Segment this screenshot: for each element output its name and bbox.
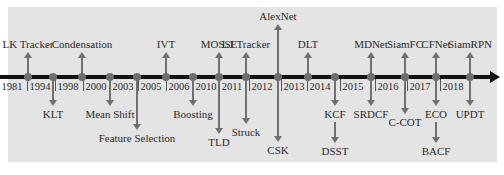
timeline-node: [189, 73, 197, 81]
event-label-up: SiamFC: [387, 38, 423, 50]
event-label-up: Condensation: [52, 38, 113, 50]
year-label: 2003: [113, 81, 134, 93]
event-label-down: UPDT: [456, 108, 485, 120]
event-label-down: Boosting: [173, 108, 213, 120]
arrow-down-icon: [367, 100, 375, 106]
year-separator: [375, 79, 376, 91]
arrow-up-icon: [24, 52, 32, 58]
down-arrow-stem: [277, 77, 279, 137]
timeline-node: [274, 73, 282, 81]
arrow-up-icon: [215, 52, 223, 58]
year-label: 2011: [222, 81, 243, 93]
year-label: 2012: [252, 81, 273, 93]
arrow-down-icon: [215, 128, 223, 134]
down-arrow-stem: [404, 77, 406, 109]
event-label-up: CFNet: [421, 38, 450, 50]
arrow-down-icon: [242, 118, 250, 124]
arrow-down-icon: [274, 136, 282, 142]
arrow-down-icon: [49, 100, 57, 106]
down-arrow-stem: [435, 122, 437, 138]
timeline-node: [162, 73, 170, 81]
event-label-down: SRDCF: [354, 108, 389, 120]
arrow-down-icon: [432, 100, 440, 106]
up-arrow-stem: [277, 29, 279, 77]
year-label: 1994: [30, 81, 51, 93]
event-label-down: BACF: [422, 145, 451, 157]
year-label: 2013: [284, 81, 305, 93]
year-label: 2014: [310, 81, 331, 93]
axis-arrow-icon: [490, 71, 500, 83]
event-label-down: Feature Selection: [99, 132, 176, 144]
timeline-node: [78, 73, 86, 81]
arrow-up-icon: [162, 52, 170, 58]
year-separator: [249, 79, 250, 91]
arrow-up-icon: [304, 52, 312, 58]
year-label: 1998: [58, 81, 79, 93]
timeline-node: [133, 73, 141, 81]
arrow-up-icon: [78, 52, 86, 58]
year-separator: [340, 79, 341, 91]
timeline: 1981199419982000200320052006201020112012…: [0, 0, 504, 175]
event-label-down: Mean Shift: [85, 108, 134, 120]
event-label-down: ECO: [425, 108, 447, 120]
timeline-node: [367, 73, 375, 81]
event-label-down: CSK: [267, 144, 288, 156]
timeline-node: [106, 73, 114, 81]
arrow-down-icon: [331, 137, 339, 143]
timeline-node: [401, 73, 409, 81]
year-label: 2010: [196, 81, 217, 93]
year-label: 2006: [169, 81, 190, 93]
arrow-up-icon: [401, 52, 409, 58]
timeline-node: [331, 73, 339, 81]
timeline-node: [432, 73, 440, 81]
year-separator: [55, 79, 56, 91]
arrow-down-icon: [106, 100, 114, 106]
event-label-down: Struck: [232, 126, 261, 138]
arrow-down-icon: [432, 137, 440, 143]
timeline-node: [215, 73, 223, 81]
down-arrow-stem: [245, 77, 247, 119]
down-arrow-stem: [136, 77, 138, 125]
arrow-down-icon: [133, 124, 141, 130]
event-label-down: DSST: [322, 145, 349, 157]
timeline-node: [49, 73, 57, 81]
timeline-node: [466, 73, 474, 81]
arrow-up-icon: [242, 52, 250, 58]
event-label-down: KCF: [324, 108, 345, 120]
year-label: 2017: [410, 81, 431, 93]
arrow-up-icon: [432, 52, 440, 58]
down-arrow-stem: [218, 77, 220, 129]
year-label: 2016: [378, 81, 399, 93]
year-separator: [407, 79, 408, 91]
year-label: 1981: [2, 81, 23, 93]
arrow-down-icon: [189, 100, 197, 106]
event-label-down: KLT: [43, 108, 63, 120]
arrow-down-icon: [466, 100, 474, 106]
event-label-down: TLD: [208, 136, 229, 148]
year-separator: [440, 79, 441, 91]
arrow-up-icon: [274, 24, 282, 30]
year-separator: [281, 79, 282, 91]
arrow-down-icon: [331, 100, 339, 106]
timeline-node: [24, 73, 32, 81]
timeline-node: [242, 73, 250, 81]
event-label-up: LK Tracker: [2, 38, 53, 50]
arrow-up-icon: [367, 52, 375, 58]
event-label-up: IVT: [157, 38, 175, 50]
event-label-up: AlexNet: [259, 10, 296, 22]
timeline-node: [304, 73, 312, 81]
event-label-up: DLT: [298, 38, 318, 50]
year-label: 2000: [86, 81, 107, 93]
year-label: 2005: [141, 81, 162, 93]
year-label: 2018: [443, 81, 464, 93]
event-label-up: SiamRPN: [448, 38, 492, 50]
event-label-up: L1 Tracker: [222, 38, 271, 50]
year-label: 2015: [343, 81, 364, 93]
event-label-up: MDNet: [354, 38, 388, 50]
down-arrow-stem: [334, 122, 336, 138]
event-label-down: C-COT: [389, 116, 422, 128]
arrow-up-icon: [466, 52, 474, 58]
arrow-down-icon: [401, 108, 409, 114]
